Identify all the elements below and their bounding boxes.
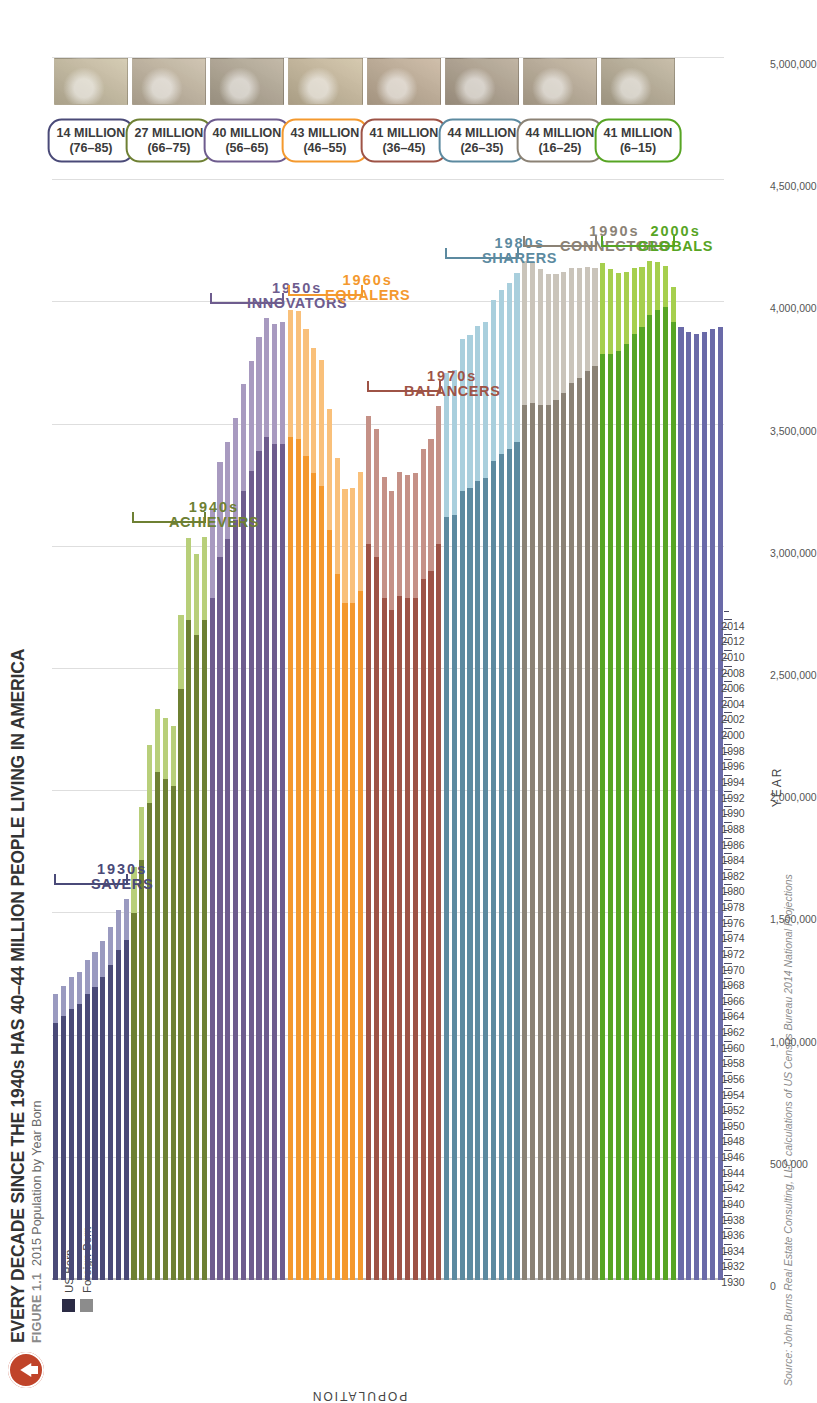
source-note: Source: John Burns Real Estate Consultin… [782, 874, 794, 1386]
bar-row [131, 867, 136, 1280]
bar-segment-foreign-born [61, 986, 66, 1017]
bar-segment-us-born [569, 383, 574, 1280]
cohort-stat-pill: 40 MILLION(56–65) [204, 119, 291, 163]
bar-row [335, 458, 340, 1280]
bar-row [124, 899, 129, 1280]
bar-segment-us-born [702, 332, 707, 1280]
bar-row [92, 952, 97, 1280]
bar-segment-us-born [303, 456, 308, 1280]
bar-segment-foreign-born [538, 269, 543, 405]
y-tick-label: 0 [770, 1280, 776, 1292]
bar-segment-foreign-born [663, 266, 668, 308]
cohort-callout: 14 MILLION(76–85) [54, 58, 128, 184]
y-tick-label: 5,000,000 [770, 58, 817, 70]
cohort-name: SAVERS [91, 877, 153, 892]
bar-row [397, 472, 402, 1280]
bar-segment-foreign-born [288, 310, 293, 437]
cohort-name: EQUALERS [325, 288, 410, 303]
bar-row [155, 709, 160, 1280]
bar-row [444, 373, 449, 1280]
x-tick-label: 1988 [721, 823, 744, 835]
cohort-photo [288, 58, 362, 105]
bar-segment-us-born [186, 620, 191, 1280]
bar-segment-foreign-born [647, 261, 652, 315]
bar-segment-us-born [210, 598, 215, 1280]
cohort-total: 14 MILLION [57, 126, 126, 141]
bar-segment-foreign-born [397, 472, 402, 595]
bar-segment-us-born [671, 322, 676, 1280]
bar-segment-us-born [663, 307, 668, 1280]
bar-segment-us-born [553, 400, 558, 1280]
population-axis: POPULATION [52, 1280, 724, 1398]
bar-row [100, 941, 105, 1280]
bracket-cap-top [54, 874, 56, 885]
cohort-total: 40 MILLION [213, 126, 282, 141]
bar-segment-us-born [217, 557, 222, 1280]
bar-segment-us-born [327, 530, 332, 1280]
bracket-cap-top [523, 236, 525, 247]
bar-segment-us-born [577, 378, 582, 1280]
bar-row [366, 416, 371, 1280]
x-tick-label: 1958 [721, 1057, 744, 1069]
y-tick-label: 500,000 [770, 1158, 808, 1170]
cohort-name: BALANCERS [404, 384, 500, 399]
bar-row [272, 324, 277, 1280]
bar-segment-us-born [460, 491, 465, 1280]
bar-segment-us-born [108, 965, 113, 1280]
bar-row [77, 972, 82, 1280]
x-tick [724, 611, 729, 612]
cohort-stat-pill: 41 MILLION(36–45) [360, 119, 447, 163]
bar-segment-us-born [452, 515, 457, 1280]
bar-row [69, 977, 74, 1280]
bar-segment-foreign-born [655, 262, 660, 310]
x-tick-label: 1942 [721, 1182, 744, 1194]
bar-segment-foreign-born [561, 272, 566, 393]
cohort-stat-pill: 41 MILLION(6–15) [595, 119, 682, 163]
bar-segment-foreign-born [389, 491, 394, 611]
bar-segment-us-born [225, 539, 230, 1280]
bar-segment-foreign-born [483, 322, 488, 478]
bar-segment-us-born [686, 332, 691, 1280]
bar-row [663, 266, 668, 1280]
bar-row [210, 510, 215, 1280]
x-tick-label: 1994 [721, 776, 744, 788]
page-title: EVERY DECADE SINCE THE 1940s HAS 40–44 M… [9, 649, 27, 1343]
bar-segment-us-born [92, 987, 97, 1280]
bar-segment-foreign-born [624, 272, 629, 344]
bar-row [452, 370, 457, 1280]
x-tick-label: 1948 [721, 1135, 744, 1147]
cohort-callout: 43 MILLION(46–55) [288, 58, 362, 184]
up-arrow-icon [8, 1352, 44, 1388]
y-tick-label: 4,500,000 [770, 180, 817, 192]
bar-segment-foreign-born [585, 267, 590, 371]
bar-row [264, 318, 269, 1280]
bar-segment-us-born [131, 913, 136, 1280]
bar-segment-us-born [342, 603, 347, 1280]
bar-segment-foreign-born [366, 416, 371, 544]
bar-row [608, 269, 613, 1280]
cohort-photo [523, 58, 597, 105]
bar-segment-foreign-born [405, 475, 410, 598]
cohort-age-range: (46–55) [291, 141, 360, 156]
bar-segment-foreign-born [178, 615, 183, 688]
bar-row [710, 329, 715, 1280]
bar-segment-foreign-born [256, 337, 261, 452]
bar-row [686, 332, 691, 1280]
bar-segment-foreign-born [577, 268, 582, 378]
cohort-total: 41 MILLION [369, 126, 438, 141]
bar-segment-foreign-born [108, 927, 113, 965]
y-tick-label: 4,000,000 [770, 302, 817, 314]
bar-segment-us-born [350, 603, 355, 1280]
cohort-callout: 44 MILLION(26–35) [445, 58, 519, 184]
bar-segment-us-born [514, 442, 519, 1280]
bar-row [569, 268, 574, 1280]
cohort-age-range: (36–45) [369, 141, 438, 156]
bar-segment-foreign-born [475, 326, 480, 481]
bar-segment-foreign-born [147, 745, 152, 804]
bar-segment-foreign-born [382, 477, 387, 598]
y-tick-label: 2,000,000 [770, 791, 817, 803]
bar-row [288, 310, 293, 1280]
x-tick-label: 1932 [721, 1260, 744, 1272]
bar-segment-foreign-born [546, 274, 551, 405]
